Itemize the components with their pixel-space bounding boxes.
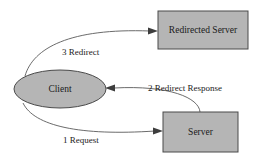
node-server: Server [163,112,238,152]
edge-2-redirect-response-label: 2 Redirect Response [148,83,222,93]
edge-1-request-arrowhead [153,128,163,135]
node-client: Client [14,70,106,108]
edge-2-redirect-response-arrowhead [105,85,115,92]
edge-3-redirect-label: 3 Redirect [62,47,100,57]
edge-1-request-path [23,103,155,132]
edge-1-request [23,103,163,134]
server-label: Server [188,127,214,137]
client-label: Client [48,84,72,94]
redirected-server-label: Redirected Server [169,25,238,35]
edge-1-request-label: 1 Request [63,135,99,145]
redirect-flow-diagram: Redirected Server Server Client 3 Redire… [0,0,257,162]
diagram-canvas: Redirected Server Server Client 3 Redire… [0,0,257,162]
node-redirected-server: Redirected Server [158,11,248,49]
edge-3-redirect-arrowhead [148,28,158,35]
